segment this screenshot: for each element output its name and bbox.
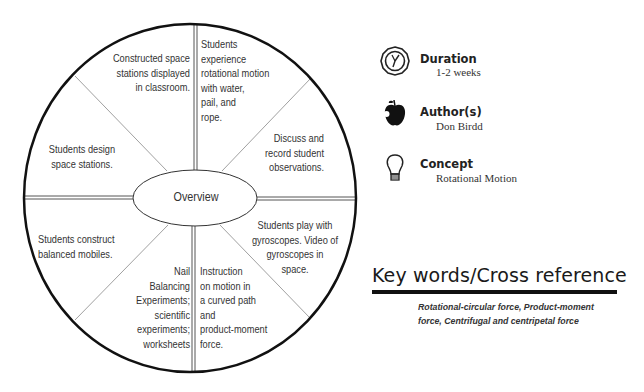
- authors-value: Don Birdd: [436, 120, 483, 132]
- duration-label: Duration: [420, 52, 477, 66]
- lightbulb-icon: [380, 153, 410, 183]
- keywords-heading: Key words/Cross reference: [372, 264, 627, 286]
- clock-icon: [380, 46, 410, 76]
- concept-value: Rotational Motion: [436, 172, 517, 184]
- segment-top-right: Students experience rotational motion wi…: [201, 37, 298, 124]
- segment-left-lower: Students construct balanced mobiles.: [38, 232, 135, 261]
- segment-left-upper: Students design space stations.: [40, 142, 124, 171]
- segment-top-left: Constructed space stations displayed in …: [104, 51, 190, 95]
- segment-bottom-left: Nail Balancing Experiments; scientific e…: [120, 264, 190, 351]
- authors-label: Author(s): [420, 105, 482, 119]
- keywords-underline: [372, 290, 617, 294]
- concept-label: Concept: [420, 157, 473, 171]
- overview-label: Overview: [164, 190, 229, 204]
- duration-value: 1-2 weeks: [436, 66, 481, 78]
- segment-bottom-right: Instruction on motion in a curved path a…: [200, 264, 288, 351]
- keywords-body: Rotational-circular force, Product-momen…: [418, 300, 602, 327]
- apple-icon: [380, 98, 410, 128]
- segment-right-upper: Discuss and record student observations.: [250, 131, 324, 175]
